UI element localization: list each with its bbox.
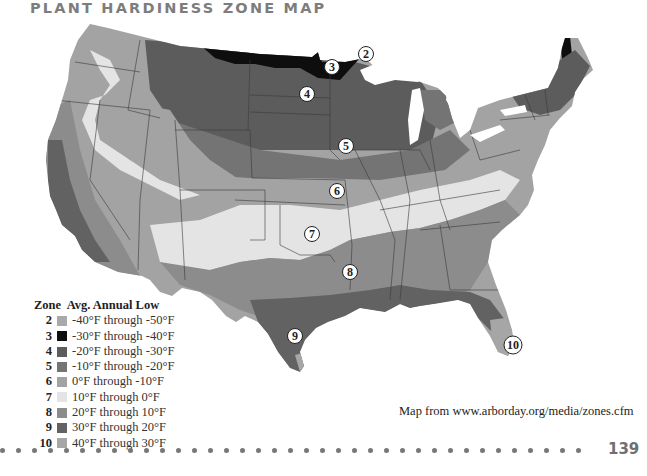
divider-dot (192, 448, 197, 453)
legend-zone-number: 5 (34, 359, 52, 374)
zone-marker-2: 2 (359, 47, 374, 62)
legend-range: 20°F through 10°F (72, 405, 166, 420)
zone-marker-label: 3 (329, 60, 335, 74)
divider-dot (368, 448, 373, 453)
divider-dot (80, 448, 85, 453)
zone-marker-8: 8 (343, 265, 358, 280)
divider-dot (448, 448, 453, 453)
divider-dot (352, 448, 357, 453)
divider-dot (464, 448, 469, 453)
map-credit: Map from www.arborday.org/media/zones.cf… (399, 404, 634, 419)
divider-dot (224, 448, 229, 453)
legend-swatch (57, 331, 67, 341)
legend-range: -20°F through -30°F (72, 344, 174, 359)
legend-item-zone-3: 3-30°F through -40°F (34, 329, 174, 344)
legend-swatch (57, 377, 67, 387)
page-number: 139 (608, 440, 639, 458)
legend-item-zone-6: 60°F through -10°F (34, 374, 174, 389)
legend-zone-number: 7 (34, 390, 52, 405)
divider-dot (336, 448, 341, 453)
divider-dot (576, 448, 581, 453)
zone-marker-6: 6 (330, 184, 345, 199)
legend-item-zone-8: 820°F through 10°F (34, 405, 174, 420)
divider-dot (160, 448, 165, 453)
legend-range: 10°F through 0°F (72, 390, 160, 405)
dotted-divider (0, 448, 600, 458)
zone-marker-label: 10 (507, 338, 519, 352)
legend-item-zone-4: 4-20°F through -30°F (34, 344, 174, 359)
divider-dot (256, 448, 261, 453)
divider-dot (400, 448, 405, 453)
legend-range: 0°F through -10°F (72, 374, 164, 389)
legend-zone-number: 9 (34, 420, 52, 435)
divider-dot (112, 448, 117, 453)
zone-marker-3: 3 (325, 60, 340, 75)
zone-marker-9: 9 (288, 329, 303, 344)
divider-dot (560, 448, 565, 453)
divider-dot (176, 448, 181, 453)
legend-swatch (57, 438, 67, 448)
zone-marker-4: 4 (300, 87, 315, 102)
zone-marker-10: 10 (504, 336, 522, 354)
legend-item-zone-9: 930°F through 20°F (34, 420, 174, 435)
zone-marker-7: 7 (305, 227, 320, 242)
divider-dot (496, 448, 501, 453)
divider-dot (272, 448, 277, 453)
legend-zone-number: 2 (34, 313, 52, 328)
zone-marker-label: 8 (347, 265, 353, 279)
legend-zone-number: 3 (34, 329, 52, 344)
divider-dot (32, 448, 37, 453)
legend-zone-number: 4 (34, 344, 52, 359)
zone-marker-5: 5 (339, 139, 354, 154)
divider-dot (384, 448, 389, 453)
zone-marker-label: 6 (334, 184, 340, 198)
divider-dot (128, 448, 133, 453)
zone-marker-label: 7 (309, 227, 315, 241)
legend-rows: 2-40°F through -50°F3-30°F through -40°F… (34, 313, 174, 451)
legend-swatch (57, 408, 67, 418)
legend-swatch (57, 316, 67, 326)
divider-dot (288, 448, 293, 453)
legend-zone-header: Zone (34, 298, 61, 312)
divider-dot (48, 448, 53, 453)
divider-dot (480, 448, 485, 453)
legend-swatch (57, 362, 67, 372)
legend-item-zone-5: 5-10°F through -20°F (34, 359, 174, 374)
zone-4-northeast (508, 50, 590, 115)
zone-marker-label: 5 (343, 139, 349, 153)
legend-swatch (57, 392, 67, 402)
legend: Zone Avg. Annual Low 2-40°F through -50°… (34, 298, 174, 451)
divider-dot (16, 448, 21, 453)
divider-dot (304, 448, 309, 453)
legend-swatch (57, 347, 67, 357)
legend-range: -30°F through -40°F (72, 329, 174, 344)
zone-marker-label: 2 (363, 47, 369, 61)
legend-header: Zone Avg. Annual Low (34, 298, 174, 313)
divider-dot (240, 448, 245, 453)
divider-dot (144, 448, 149, 453)
legend-low-header: Avg. Annual Low (67, 298, 160, 312)
divider-dot (320, 448, 325, 453)
divider-dot (96, 448, 101, 453)
legend-range: -40°F through -50°F (72, 313, 174, 328)
divider-dot (0, 448, 5, 453)
legend-item-zone-7: 710°F through 0°F (34, 390, 174, 405)
legend-range: -10°F through -20°F (72, 359, 174, 374)
divider-dot (432, 448, 437, 453)
divider-dot (64, 448, 69, 453)
divider-dot (416, 448, 421, 453)
zone-marker-label: 9 (292, 329, 298, 343)
legend-zone-number: 6 (34, 374, 52, 389)
legend-swatch (57, 423, 67, 433)
legend-item-zone-2: 2-40°F through -50°F (34, 313, 174, 328)
divider-dot (544, 448, 549, 453)
divider-dot (208, 448, 213, 453)
legend-zone-number: 8 (34, 405, 52, 420)
zone-marker-label: 4 (304, 87, 310, 101)
divider-dot (528, 448, 533, 453)
legend-range: 30°F through 20°F (72, 420, 166, 435)
divider-dot (512, 448, 517, 453)
